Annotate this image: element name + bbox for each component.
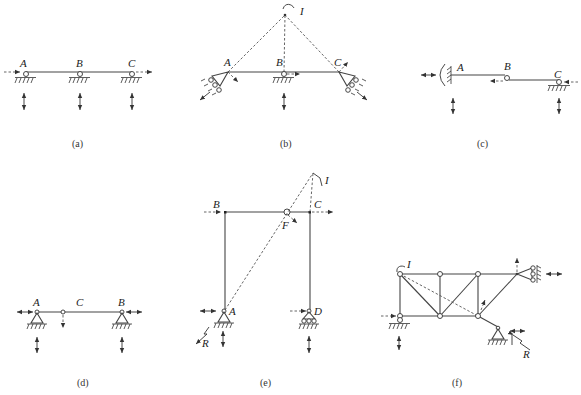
- panel-f: I: [381, 258, 562, 389]
- roller-support-c: [548, 80, 578, 115]
- label-r: R: [201, 337, 209, 349]
- label-a: A: [32, 296, 40, 308]
- caption-a: (a): [72, 138, 83, 150]
- caption-d: (d): [77, 377, 89, 389]
- roller-support-left: [381, 316, 410, 350]
- structural-mechanics-figure: A B C (a) I: [0, 0, 581, 395]
- panel-a: A B C (a): [4, 57, 152, 150]
- label-a: A: [456, 61, 464, 73]
- label-d: D: [313, 305, 322, 317]
- roller-support-right: [517, 258, 562, 283]
- caption-c: (c): [477, 138, 488, 150]
- panel-e: I R B C F A D: [196, 173, 333, 389]
- rotation-arc: [440, 64, 445, 86]
- label-i: I: [406, 258, 412, 270]
- inclined-roller-support-c: [339, 62, 367, 100]
- pin-support-right: [488, 326, 530, 350]
- rotation-mark-i: [397, 266, 405, 272]
- roller-support-b: [69, 72, 90, 84]
- label-b: B: [118, 296, 125, 308]
- label-f: F: [281, 219, 289, 231]
- label-a: A: [223, 56, 231, 68]
- caption-b: (b): [280, 138, 292, 150]
- label-b: B: [76, 57, 83, 69]
- panel-d: A C B (d): [17, 296, 142, 389]
- label-c: C: [128, 57, 136, 69]
- label-i: I: [324, 174, 330, 186]
- vertical-double-arrows: [24, 93, 132, 110]
- inclined-roller-support-a: [200, 72, 238, 100]
- label-a: A: [228, 305, 236, 317]
- hinge-b: [505, 76, 510, 81]
- caption-e: (e): [260, 377, 271, 389]
- caption-f: (f): [452, 377, 462, 389]
- label-r: R: [522, 348, 530, 360]
- label-i: I: [299, 5, 305, 17]
- roller-support-b: [273, 72, 300, 111]
- pin-support-b: [112, 313, 132, 353]
- label-c: C: [76, 296, 84, 308]
- label-a: A: [19, 57, 27, 69]
- label-b: B: [276, 56, 283, 68]
- rotation-arc-i: [283, 4, 294, 9]
- truss-members: [400, 274, 517, 327]
- panel-c: A B C (c): [421, 60, 578, 150]
- label-b: B: [504, 60, 511, 72]
- label-c: C: [554, 68, 562, 80]
- label-c: C: [334, 56, 342, 68]
- roller-support-c: [121, 72, 142, 84]
- label-c: C: [314, 198, 322, 210]
- hinge-c: [61, 310, 65, 314]
- panel-b: I A B: [200, 4, 367, 150]
- label-b: B: [213, 198, 220, 210]
- fixed-support-a: [421, 64, 453, 114]
- pin-support-a: [27, 313, 47, 353]
- rotation-mark-i: [313, 173, 322, 186]
- roller-support-a: [15, 72, 36, 84]
